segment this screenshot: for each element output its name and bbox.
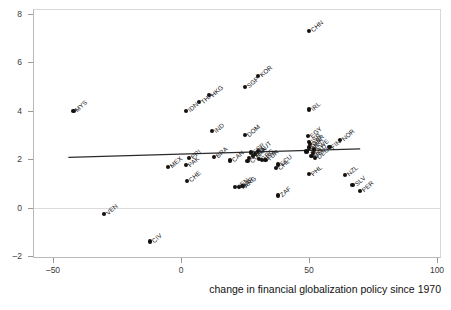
- x-tick-mark: [437, 258, 438, 263]
- y-tick-mark: [28, 159, 33, 160]
- y-tick-mark: [28, 62, 33, 63]
- zero-reference-line: [34, 208, 440, 209]
- y-tick-label: 8: [0, 10, 22, 18]
- x-tick-mark: [181, 258, 182, 263]
- y-tick-mark: [28, 111, 33, 112]
- x-tick-label: –50: [33, 266, 73, 275]
- x-tick-mark: [53, 258, 54, 263]
- scatter-plot-figure: –202468 –50050100 CHNKORSGPHKGTHAIRLIDNM…: [0, 0, 451, 310]
- y-tick-label: 4: [0, 107, 22, 115]
- y-tick-label: 0: [0, 204, 22, 212]
- y-tick-mark: [28, 256, 33, 257]
- x-tick-mark: [309, 258, 310, 263]
- y-tick-label: 2: [0, 155, 22, 163]
- x-tick-label: 50: [289, 266, 329, 275]
- y-tick-mark: [28, 208, 33, 209]
- plot-area: [33, 9, 441, 258]
- x-axis-title: change in financial globalization policy…: [0, 283, 441, 295]
- x-tick-label: 0: [161, 266, 201, 275]
- y-tick-mark: [28, 14, 33, 15]
- y-tick-label: 6: [0, 58, 22, 66]
- y-tick-label: –2: [0, 252, 22, 260]
- x-tick-label: 100: [417, 266, 451, 275]
